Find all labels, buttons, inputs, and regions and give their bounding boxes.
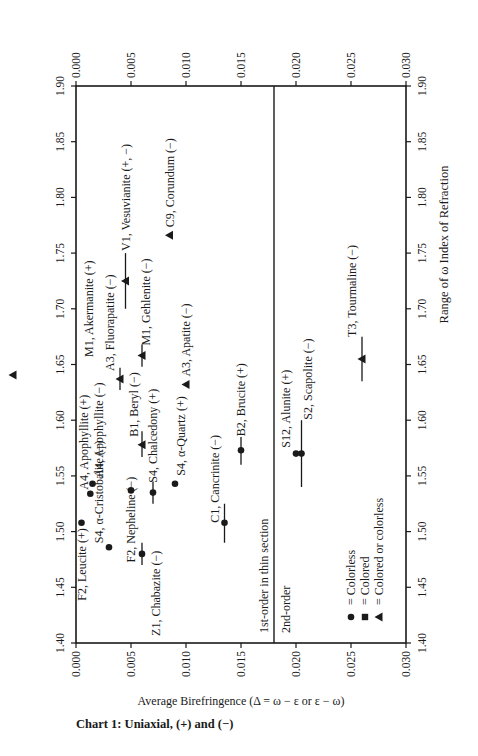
x-tick-label-top: 1.85	[54, 131, 66, 151]
y-axis-title: Average Birefringence (Δ = ω − ε or ε − …	[138, 694, 345, 708]
x-tick-label-bottom: 1.45	[416, 577, 428, 597]
x-tick-label-top: 1.40	[54, 633, 66, 653]
y-tick-label-right: 0.030	[400, 52, 412, 78]
x-tick-label-bottom: 1.40	[416, 633, 428, 653]
legend-circle-icon	[348, 614, 355, 621]
point-label: A4, Apophyllite (+)	[77, 395, 91, 490]
point-label: A3, Apatite (−)	[179, 303, 193, 376]
point-label: S12, Alunite (+)	[279, 370, 293, 448]
y-tick-label-left: 0.005	[125, 651, 137, 677]
point-label: S4, Chalcedony (+)	[146, 389, 160, 483]
x-tick-label-top: 1.60	[54, 410, 66, 430]
first-order-label: 1st-order in thin section	[257, 519, 271, 633]
legend-square-icon	[362, 614, 368, 620]
x-tick-label-bottom: 1.80	[416, 187, 428, 207]
circle-marker	[238, 447, 245, 454]
x-tick-label-top: 1.80	[54, 187, 66, 207]
y-tick-label-left: 0.015	[235, 651, 247, 677]
point-label: S4, α-Quartz (+)	[174, 396, 188, 475]
point-label: F2, Leucite (+)	[75, 528, 89, 600]
second-order-label: 2nd-order	[279, 586, 293, 633]
rotated-chart-canvas: 1st-order in thin section2nd-order1.401.…	[0, 0, 478, 756]
point-label: F2, Nepheline (−)	[124, 477, 138, 563]
point-label: B1, Beryl (−)	[127, 372, 141, 436]
point-label: M1, Gehlenite (−)	[139, 259, 153, 346]
x-tick-label-top: 1.75	[54, 243, 66, 263]
point-label: C1, Cancrinite (−)	[208, 435, 222, 523]
point-label: B2, Brucite (+)	[234, 363, 248, 436]
legend-colored-label: = Colored	[358, 557, 372, 605]
x-tick-label-bottom: 1.65	[416, 354, 428, 374]
x-tick-label-bottom: 1.90	[416, 76, 428, 96]
x-tick-label-top: 1.50	[54, 521, 66, 541]
legend-triangle-icon	[375, 613, 383, 622]
x-tick-label-top: 1.65	[54, 354, 66, 374]
y-tick-label-right: 0.025	[345, 52, 357, 78]
point-label: C9, Corundum (−)	[163, 138, 177, 227]
circle-marker	[78, 519, 85, 526]
point-label: S2, Scapolite (−)	[301, 339, 315, 420]
x-axis-title: Range of ω Index of Refraction	[437, 165, 451, 324]
circle-marker	[221, 519, 228, 526]
y-tick-label-left: 0.020	[290, 651, 302, 677]
point-label: Z1, Chabazite (−)	[149, 551, 163, 636]
y-tick-label-right: 0.020	[290, 52, 302, 78]
x-tick-label-bottom: 1.60	[416, 410, 428, 430]
x-tick-label-top: 1.55	[54, 466, 66, 486]
point-label: T3, Tourmaline (−)	[345, 245, 359, 337]
stray-triangle-marker	[9, 371, 17, 380]
point-label: V1, Vesuvianite (+, −)	[119, 144, 133, 251]
x-tick-label-bottom: 1.50	[416, 521, 428, 541]
x-tick-label-top: 1.70	[54, 298, 66, 318]
y-tick-label-left: 0.000	[70, 651, 82, 677]
x-tick-label-bottom: 1.75	[416, 243, 428, 263]
circle-marker	[106, 544, 113, 551]
y-tick-label-right: 0.010	[180, 52, 192, 78]
triangle-marker	[182, 380, 190, 389]
legend-colorless-label: = Colorless	[344, 550, 358, 605]
chart-title: Chart 1: Uniaxial, (+) and (−)	[76, 717, 233, 731]
y-tick-label-right: 0.000	[70, 52, 82, 78]
triangle-marker	[165, 231, 173, 240]
y-tick-label-left: 0.025	[345, 651, 357, 677]
x-tick-label-bottom: 1.85	[416, 131, 428, 151]
y-tick-label-left: 0.030	[400, 651, 412, 677]
x-tick-label-top: 1.90	[54, 76, 66, 96]
circle-marker	[150, 489, 157, 496]
legend-either-label: = Colored or colorless	[372, 498, 386, 605]
y-tick-label-right: 0.005	[125, 52, 137, 78]
point-label: M1, Akermanite (+)	[82, 261, 96, 357]
y-tick-label-left: 0.010	[180, 651, 192, 677]
circle-marker	[172, 480, 179, 487]
circle-marker	[139, 551, 146, 558]
point-label: S4, α-Cristobalite (−)	[92, 440, 106, 543]
scatter-chart: 1st-order in thin section2nd-order1.401.…	[0, 0, 478, 756]
y-tick-label-right: 0.015	[235, 52, 247, 78]
x-tick-label-bottom: 1.70	[416, 298, 428, 318]
x-tick-label-bottom: 1.55	[416, 466, 428, 486]
x-tick-label-top: 1.45	[54, 577, 66, 597]
circle-marker	[298, 450, 305, 457]
point-label: A3, Fluorapatite (−)	[103, 275, 117, 371]
